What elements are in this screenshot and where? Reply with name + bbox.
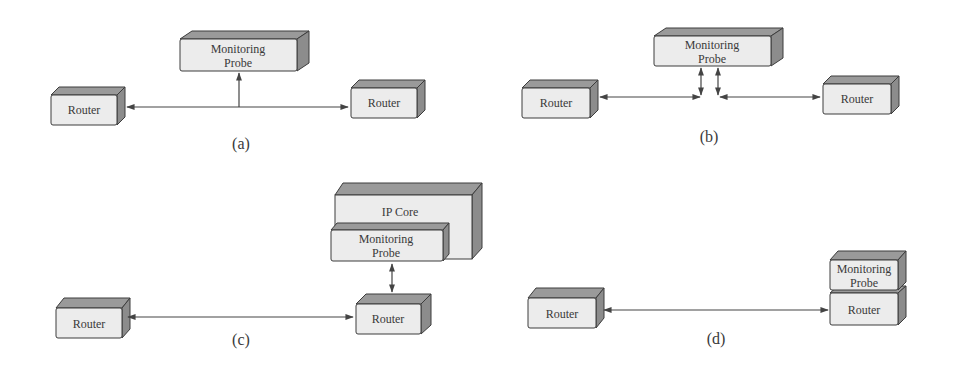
probe-label-line1: Monitoring	[685, 38, 740, 52]
probe-label-line1: Monitoring	[211, 42, 266, 56]
router-box: Router	[823, 76, 899, 114]
diagram-canvas: Router Monitoring Probe Router (a) Route…	[0, 0, 953, 366]
probe-label-line2: Probe	[698, 52, 726, 66]
monitoring-probe-box: Monitoring Probe	[331, 223, 449, 261]
caption: (c)	[232, 331, 250, 349]
monitoring-probe-box: Monitoring Probe	[654, 28, 783, 66]
probe-label-line2: Probe	[372, 246, 400, 260]
probe-label-line1: Monitoring	[359, 232, 414, 246]
router-label: Router	[848, 303, 881, 317]
probe-label-line2: Probe	[224, 56, 252, 70]
router-label: Router	[73, 317, 106, 331]
panel-b: Router Monitoring Probe Router (b)	[522, 28, 899, 146]
router-box: Router	[51, 87, 125, 125]
caption: (d)	[707, 330, 726, 348]
panel-a: Router Monitoring Probe Router (a)	[51, 31, 425, 153]
router-box: Router	[356, 294, 431, 334]
router-label: Router	[368, 96, 401, 110]
monitoring-probe-box: Monitoring Probe	[830, 251, 906, 290]
probe-label-line1: Monitoring	[837, 262, 892, 276]
router-box: Router	[56, 298, 130, 338]
router-box: Router	[528, 288, 604, 328]
probe-label-line2: Probe	[850, 276, 878, 290]
router-label: Router	[68, 103, 101, 117]
router-box: Router	[830, 286, 906, 325]
router-label: Router	[372, 312, 405, 326]
panel-c: IP Core Monitoring Probe Router Router (…	[56, 183, 482, 349]
router-box: Router	[351, 80, 425, 118]
router-label: Router	[546, 307, 579, 321]
router-label: Router	[540, 96, 573, 110]
ip-core-label: IP Core	[382, 205, 419, 219]
caption: (a)	[232, 135, 250, 153]
router-box: Router	[522, 80, 598, 118]
caption: (b)	[700, 128, 719, 146]
monitoring-probe-box: Monitoring Probe	[180, 31, 309, 71]
panel-d: Router Router Monitoring Probe (d)	[528, 251, 906, 348]
router-label: Router	[841, 92, 874, 106]
